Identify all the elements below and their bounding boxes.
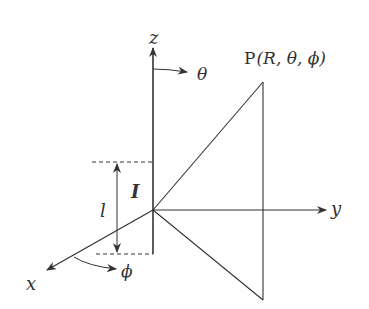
point-prefix: P [244,48,255,68]
point-coords: (R, θ, ϕ) [256,48,326,68]
z-axis-label: z [148,27,159,48]
dipole-diagram: z y x θ ϕ P(R, θ, ϕ) I l [0,0,369,309]
x-axis-label: x [26,273,36,294]
phi-label: ϕ [121,261,133,281]
theta-arrow [153,69,187,72]
y-axis-label: y [330,198,342,219]
phi-arrow [74,257,116,269]
length-label: l [100,200,106,221]
theta-label: θ [197,64,207,84]
radius-line [153,82,263,210]
projection-base [153,210,263,300]
current-label: I [130,181,140,202]
point-label: P(R, θ, ϕ) [244,48,326,68]
